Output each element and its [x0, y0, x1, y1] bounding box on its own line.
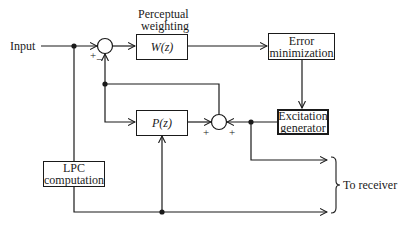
error-label-2: minimization: [270, 47, 334, 59]
to-receiver-label: To receiver: [343, 179, 397, 191]
error-minimization-block: Error minimization: [268, 33, 335, 60]
excitation-label-2: generator: [280, 122, 325, 134]
w-filter-label: W(z): [151, 41, 174, 53]
input-label: Input: [10, 40, 35, 52]
lpc-label-2: computation: [44, 174, 104, 186]
summing-junction-1: [98, 39, 113, 54]
excitation-generator-block: Excitation generator: [277, 109, 329, 135]
junction-dot: [159, 209, 164, 214]
p-filter-label: P(z): [152, 117, 172, 129]
diagram-wires: [0, 0, 411, 228]
error-label-1: Error: [289, 35, 314, 47]
lpc-computation-block: LPC computation: [43, 161, 105, 187]
w-filter-block: W(z): [136, 34, 188, 60]
junction-dot: [248, 119, 253, 124]
junction-dot: [71, 43, 76, 48]
summing-junction-2: [212, 115, 227, 130]
junction-dot: [102, 81, 107, 86]
summer2-plus-right: +: [229, 127, 235, 138]
summer1-minus: −: [96, 54, 102, 65]
summer2-plus-left: +: [203, 127, 209, 138]
p-filter-block: P(z): [136, 110, 188, 136]
perceptual-label-2: weighting: [141, 20, 189, 32]
